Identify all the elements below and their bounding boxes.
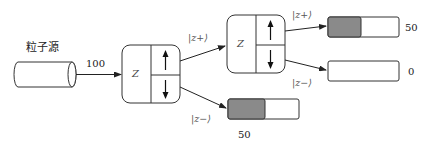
stern-gerlach-device-2 — [227, 15, 285, 73]
detector-count-sg2-up: 50 — [405, 23, 418, 33]
detector-count-sg1-down: 50 — [238, 130, 251, 140]
stern-gerlach-diagram — [0, 0, 425, 145]
beam-label-sg1-down: |z−⟩ — [191, 114, 211, 124]
beam-sg1-down — [180, 87, 226, 108]
beam-sg2-down — [285, 60, 326, 70]
beam-sg2-up — [285, 26, 326, 31]
detector-sg2-up — [328, 17, 399, 37]
detector-sg1-down — [228, 99, 299, 119]
beam-label-sg1-up: |z+⟩ — [188, 33, 208, 43]
detector-count-sg2-down: 0 — [408, 67, 414, 77]
sg2-axis-label: Z — [237, 39, 244, 49]
detector-sg2-down — [328, 61, 399, 81]
beam-sg1-up — [180, 46, 225, 61]
particle-source-cylinder — [14, 62, 76, 87]
beam-label-sg2-up: |z+⟩ — [292, 10, 312, 20]
stern-gerlach-device-1 — [122, 45, 180, 103]
beam-label-sg2-down: |z−⟩ — [292, 78, 312, 88]
sg1-axis-label: Z — [132, 69, 139, 79]
particle-source-label: 粒子源 — [26, 42, 59, 53]
source-count-label: 100 — [86, 59, 105, 69]
